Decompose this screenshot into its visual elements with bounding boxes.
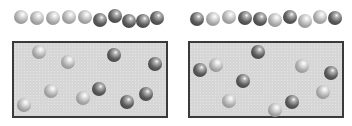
left-box-sphere-light bbox=[44, 84, 58, 98]
left-row-sphere-dark bbox=[122, 14, 136, 28]
right-box-sphere-light bbox=[268, 103, 282, 117]
right-row-sphere-dark bbox=[253, 12, 267, 26]
right-box-sphere-dark bbox=[251, 45, 265, 59]
left-row-sphere-light bbox=[14, 10, 28, 24]
right-row-sphere-light bbox=[313, 10, 327, 24]
left-row-sphere-dark bbox=[108, 9, 122, 23]
right-box-sphere-dark bbox=[324, 66, 338, 80]
left-row-sphere-dark bbox=[150, 11, 164, 25]
left-box-sphere-dark bbox=[120, 95, 134, 109]
left-box-sphere-light bbox=[61, 55, 75, 69]
left-row-sphere-light bbox=[46, 11, 60, 25]
right-row-sphere-light bbox=[298, 14, 312, 28]
left-box-sphere-light bbox=[32, 45, 46, 59]
right-container-box bbox=[188, 41, 344, 118]
left-box-sphere-dark bbox=[139, 87, 153, 101]
right-row-sphere-light bbox=[222, 10, 236, 24]
right-box-sphere-light bbox=[295, 59, 309, 73]
left-box-sphere-light bbox=[17, 98, 31, 112]
left-row-sphere-dark bbox=[93, 13, 107, 27]
right-row-sphere-dark bbox=[238, 11, 252, 25]
right-row-sphere-light bbox=[206, 12, 220, 26]
right-box-sphere-dark bbox=[236, 74, 250, 88]
right-box-sphere-light bbox=[316, 85, 330, 99]
right-row-sphere-dark bbox=[283, 10, 297, 24]
left-box-sphere-dark bbox=[148, 57, 162, 71]
left-box-sphere-dark bbox=[107, 48, 121, 62]
left-row-sphere-light bbox=[30, 11, 44, 25]
left-box-sphere-light bbox=[76, 91, 90, 105]
right-box-sphere-dark bbox=[285, 95, 299, 109]
right-row-sphere-dark bbox=[328, 11, 342, 25]
left-row-sphere-light bbox=[62, 10, 76, 24]
left-row-sphere-dark bbox=[136, 14, 150, 28]
right-box-sphere-light bbox=[209, 58, 223, 72]
right-box-sphere-dark bbox=[193, 63, 207, 77]
left-row-sphere-light bbox=[78, 10, 92, 24]
right-row-sphere-dark bbox=[190, 12, 204, 26]
right-box-sphere-light bbox=[222, 94, 236, 108]
left-box-sphere-dark bbox=[92, 82, 106, 96]
right-row-sphere-light bbox=[268, 13, 282, 27]
